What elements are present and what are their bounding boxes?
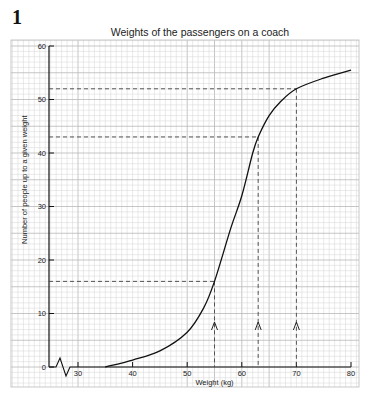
x-tick-label: 60 [238, 369, 246, 378]
x-tick-label: 40 [128, 369, 136, 378]
x-tick-label: 50 [183, 369, 191, 378]
x-tick-label: 70 [292, 369, 300, 378]
y-tick-label: 0 [42, 363, 46, 372]
y-tick-label: 50 [38, 95, 46, 104]
cumulative-frequency-curve [105, 70, 351, 367]
x-axis-label: Weight (kg) [195, 378, 234, 387]
y-tick-label: 30 [38, 202, 46, 211]
y-axis-label: Number of people up to a given weight [20, 115, 29, 244]
y-tick-label: 60 [38, 42, 46, 51]
x-tick-label: 80 [347, 369, 355, 378]
y-tick-label: 10 [38, 309, 46, 318]
y-tick-label: 20 [38, 256, 46, 265]
cumulative-frequency-chart: 0102030405060304050607080Weight (kg)Numb… [0, 0, 370, 409]
x-tick-label: 30 [74, 369, 82, 378]
y-tick-label: 40 [38, 149, 46, 158]
